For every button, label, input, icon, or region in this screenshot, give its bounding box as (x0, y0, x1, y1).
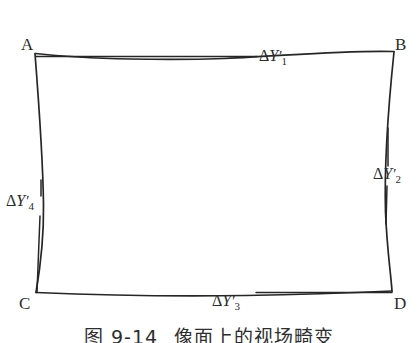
subscript-2: 2 (395, 173, 401, 185)
annotation-delta-y4: ΔY′4 (6, 193, 34, 212)
figure-caption-title: 像面上的视场畸变 (174, 326, 334, 343)
subscript-4: 4 (28, 200, 34, 212)
distortion-quadrilateral-svg (0, 0, 418, 343)
delta-symbol-1: Δ (259, 47, 269, 64)
subscript-3: 3 (234, 300, 240, 312)
delta-symbol-2: Δ (373, 165, 383, 182)
leader-line-dy2-lower (386, 186, 387, 224)
annotation-delta-y3: ΔY′3 (212, 293, 240, 312)
edge-ac (35, 54, 44, 293)
edge-ab (36, 51, 395, 59)
figure-caption-number: 图 9-14 (84, 326, 158, 343)
annotation-delta-y1: ΔY′1 (259, 48, 287, 67)
variable-symbol-4: Y (16, 192, 25, 209)
corner-label-c: C (19, 295, 30, 312)
corner-label-b: B (395, 36, 406, 53)
figure-caption: 图 9-14像面上的视场畸变 (0, 322, 418, 343)
variable-symbol-1: Y (269, 47, 278, 64)
annotation-delta-y2: ΔY′2 (373, 166, 401, 185)
corner-label-d: D (394, 295, 406, 312)
delta-symbol-3: Δ (212, 292, 222, 309)
variable-symbol-2: Y (383, 165, 392, 182)
figure-container: A B C D ΔY′1 ΔY′2 ΔY′3 ΔY′4 图 9-14像面上的视场… (0, 0, 418, 343)
variable-symbol-3: Y (222, 292, 231, 309)
delta-symbol-4: Δ (6, 192, 16, 209)
subscript-1: 1 (281, 55, 287, 67)
corner-label-a: A (21, 36, 33, 53)
